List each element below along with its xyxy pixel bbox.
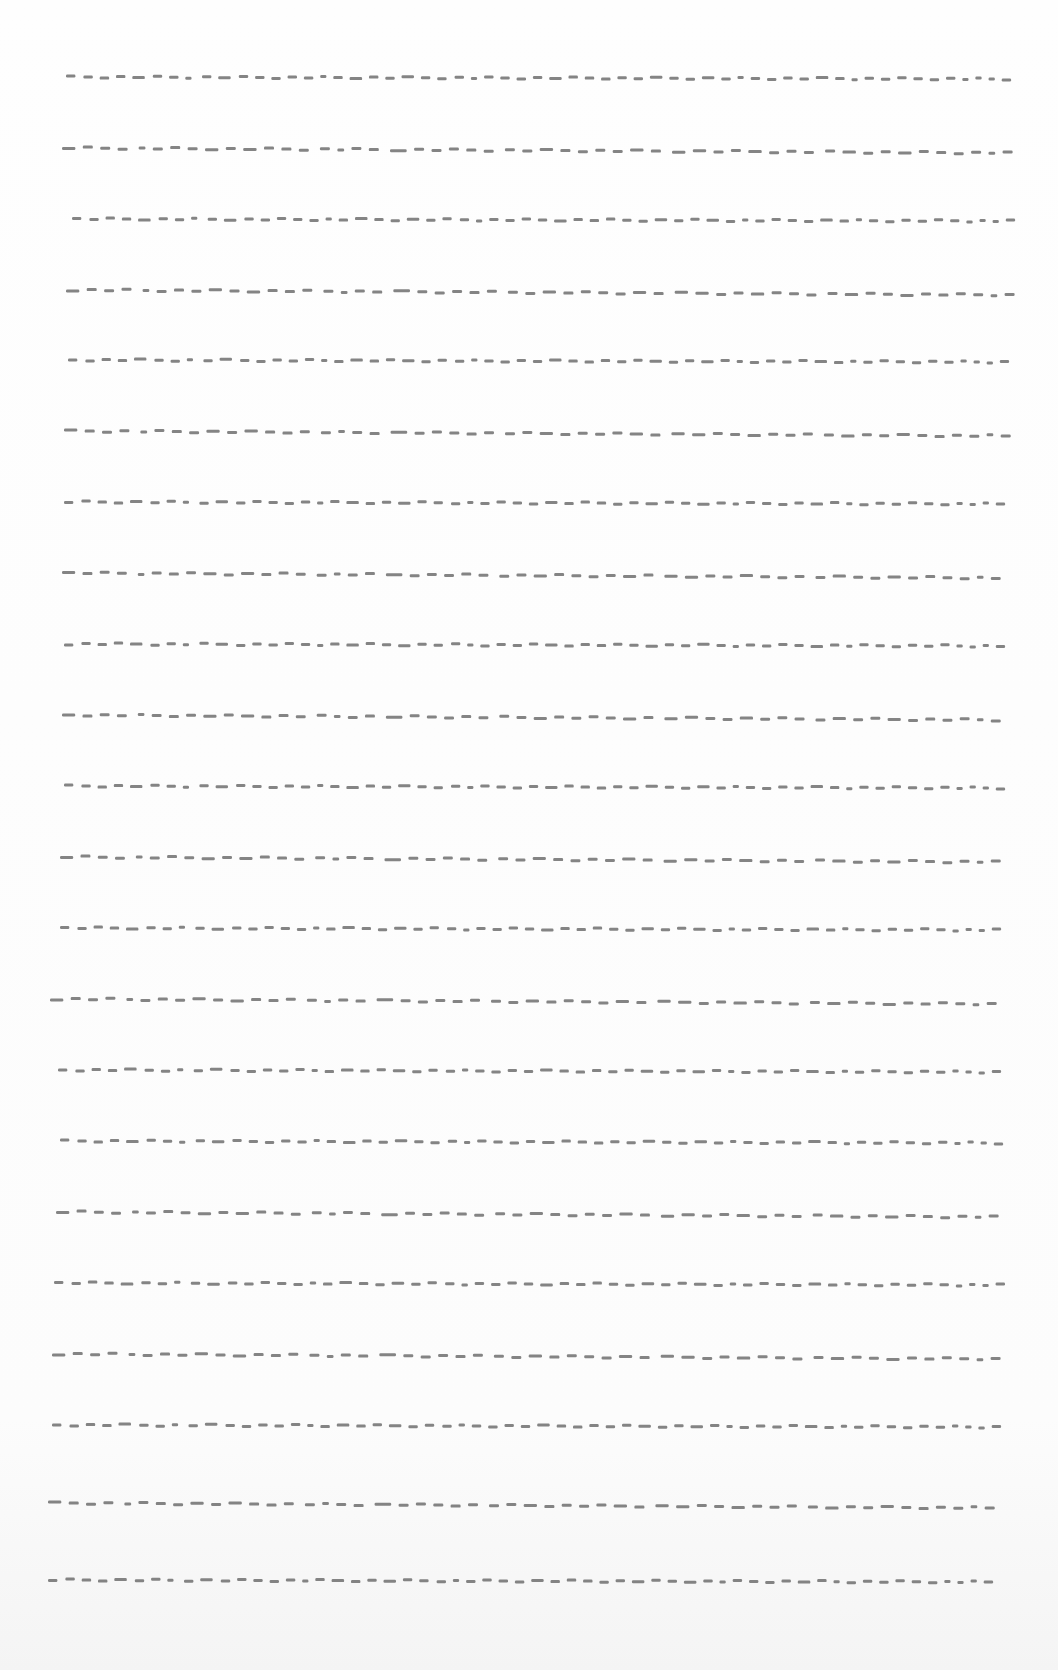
dashed-line-row (62, 708, 1008, 722)
dashed-line-row (66, 70, 1018, 84)
dashed-line-row (66, 283, 1022, 297)
dashed-line-row (60, 1134, 1010, 1148)
dashed-line-row (64, 637, 1012, 651)
dashed-line-row (62, 566, 1008, 580)
dashed-line-row (64, 779, 1012, 793)
dashed-line-row (56, 1205, 1006, 1219)
dashed-line-row (72, 212, 1022, 226)
dashed-line-row (48, 1573, 1000, 1587)
dashed-line-row (52, 1347, 1008, 1361)
dashed-line-row (62, 141, 1020, 155)
dashed-line-row (60, 921, 1008, 935)
dashed-line-row (50, 992, 1004, 1006)
dashed-line-row (64, 495, 1012, 509)
dashed-lines-page (0, 0, 1058, 1670)
dashed-line-row (52, 1418, 1008, 1432)
dashed-line-row (58, 1063, 1008, 1077)
dashed-line-row (48, 1496, 1002, 1510)
dashed-line-row (60, 850, 1008, 864)
dashed-line-row (64, 424, 1018, 438)
dashed-line-row (54, 1276, 1012, 1290)
dashed-line-row (68, 353, 1016, 367)
